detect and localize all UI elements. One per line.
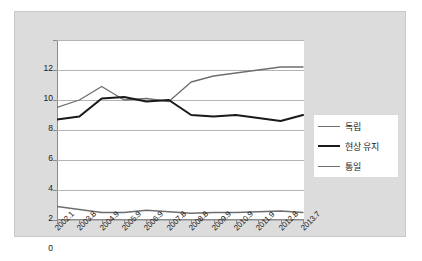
chart-legend: 독립 현상 유지 통일 [314,115,398,177]
legend-item-2: 통일 [318,159,361,173]
x-axis-tick-labels: 2002.12003.82004.92005.92006.92007.82008… [15,224,407,261]
series-line [57,67,303,108]
series-line [57,97,303,121]
legend-item-0: 독립 [318,119,361,133]
chart-screenshot: 121086420 2002.12003.82004.92005.92006.9… [0,0,422,261]
legend-label-2: 통일 [345,160,361,173]
legend-swatch-1 [318,145,340,147]
data-series-layer [57,40,304,220]
y-axis-tick-label: 12 [44,63,53,73]
y-axis-tick-label: 10 [44,93,53,103]
legend-label-0: 독립 [345,120,361,133]
legend-label-1: 현상 유지 [345,140,379,153]
y-axis-tick-label: 6 [48,153,53,163]
legend-swatch-2 [318,166,340,167]
y-axis-tick-label: 8 [48,123,53,133]
y-axis-tick-label: 2 [48,213,53,223]
chart-panel: 121086420 2002.12003.82004.92005.92006.9… [14,11,406,237]
y-axis-tick-label: 4 [48,183,53,193]
y-axis-tick-labels: 121086420 [15,40,53,220]
legend-item-1: 현상 유지 [318,139,379,153]
legend-swatch-0 [318,126,340,127]
